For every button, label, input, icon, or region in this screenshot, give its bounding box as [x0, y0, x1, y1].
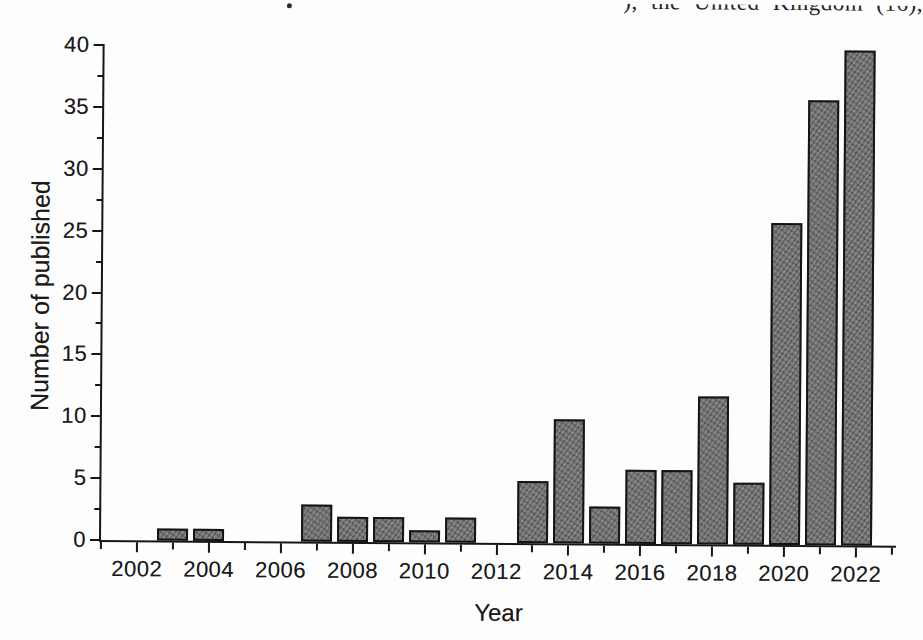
scan-artifact-dot	[287, 3, 292, 8]
bar-2014	[553, 420, 585, 544]
x-major-tick	[208, 543, 210, 553]
y-major-tick	[93, 106, 103, 108]
scanned-figure: ), the United Kingdom (16), Year Number …	[0, 0, 923, 640]
x-minor-tick	[316, 544, 318, 551]
bar-2021	[805, 100, 839, 546]
y-tick-label: 20	[44, 280, 88, 304]
x-major-tick	[711, 546, 713, 556]
top-text-fragment: ), the United Kingdom (16),	[623, 0, 923, 17]
bar-2004	[193, 528, 224, 541]
y-minor-tick	[95, 446, 101, 448]
y-tick-label: 5	[42, 466, 86, 490]
bar-2013	[517, 481, 548, 543]
x-minor-tick	[891, 548, 893, 555]
y-tick-label: 35	[45, 94, 89, 118]
y-minor-tick	[95, 384, 101, 386]
bar-2019	[733, 483, 764, 545]
y-minor-tick	[96, 199, 102, 201]
y-tick-label: 25	[44, 218, 88, 242]
x-tick-label: 2006	[244, 558, 316, 583]
x-major-tick	[783, 547, 785, 557]
bar-2017	[661, 470, 693, 544]
x-tick-label: 2022	[820, 562, 892, 587]
x-tick-label: 2008	[316, 559, 388, 584]
y-major-tick	[93, 168, 103, 170]
bar-2011	[445, 518, 476, 543]
x-minor-tick	[747, 547, 749, 554]
x-axis-title: Year	[436, 597, 560, 628]
x-minor-tick	[603, 546, 605, 553]
bar-2015	[589, 506, 620, 543]
x-tick-label: 2020	[748, 562, 820, 587]
y-major-tick	[91, 353, 101, 355]
bar-2018	[697, 396, 729, 545]
y-minor-tick	[97, 75, 103, 77]
x-minor-tick	[100, 542, 102, 549]
y-tick-label: 40	[46, 33, 90, 57]
x-minor-tick	[388, 544, 390, 551]
x-tick-label: 2018	[676, 561, 748, 586]
bar-2020	[769, 223, 802, 545]
x-minor-tick	[172, 543, 174, 550]
y-minor-tick	[96, 322, 102, 324]
bar-2009	[373, 517, 404, 542]
y-major-tick	[94, 44, 104, 46]
x-tick-label: 2010	[388, 559, 460, 584]
y-minor-tick	[96, 261, 102, 263]
x-major-tick	[495, 545, 497, 555]
x-tick-label: 2016	[604, 561, 676, 586]
y-minor-tick	[97, 137, 103, 139]
y-tick-label: 15	[43, 342, 87, 366]
publication-bar-chart: Year Number of published 051015202530354…	[4, 0, 923, 6]
y-major-tick	[90, 539, 100, 541]
clipped-paragraph-line: ), the United Kingdom (16),	[4, 0, 923, 18]
x-tick-label: 2014	[532, 560, 604, 585]
y-major-tick	[92, 291, 102, 293]
bar-2007	[301, 504, 332, 541]
x-major-tick	[136, 542, 138, 552]
y-major-tick	[92, 230, 102, 232]
x-minor-tick	[244, 543, 246, 550]
bar-2008	[337, 517, 368, 542]
y-minor-tick	[94, 508, 100, 510]
x-tick-label: 2004	[173, 558, 245, 583]
y-tick-label: 10	[43, 404, 87, 428]
x-minor-tick	[819, 547, 821, 554]
x-major-tick	[639, 546, 641, 556]
x-major-tick	[280, 543, 282, 553]
x-major-tick	[352, 544, 354, 554]
bar-2022	[840, 50, 875, 545]
x-tick-label: 2002	[101, 557, 173, 582]
bar-2016	[625, 470, 657, 544]
x-major-tick	[855, 548, 857, 558]
x-minor-tick	[531, 545, 533, 552]
y-major-tick	[91, 415, 101, 417]
x-minor-tick	[675, 546, 677, 553]
bar-2003	[157, 528, 188, 541]
y-tick-label: 30	[45, 156, 89, 180]
y-major-tick	[90, 477, 100, 479]
y-tick-label: 0	[42, 528, 86, 552]
x-major-tick	[423, 544, 425, 554]
x-minor-tick	[459, 545, 461, 552]
x-tick-label: 2012	[460, 560, 532, 585]
x-major-tick	[567, 545, 569, 555]
bar-2010	[409, 530, 440, 543]
